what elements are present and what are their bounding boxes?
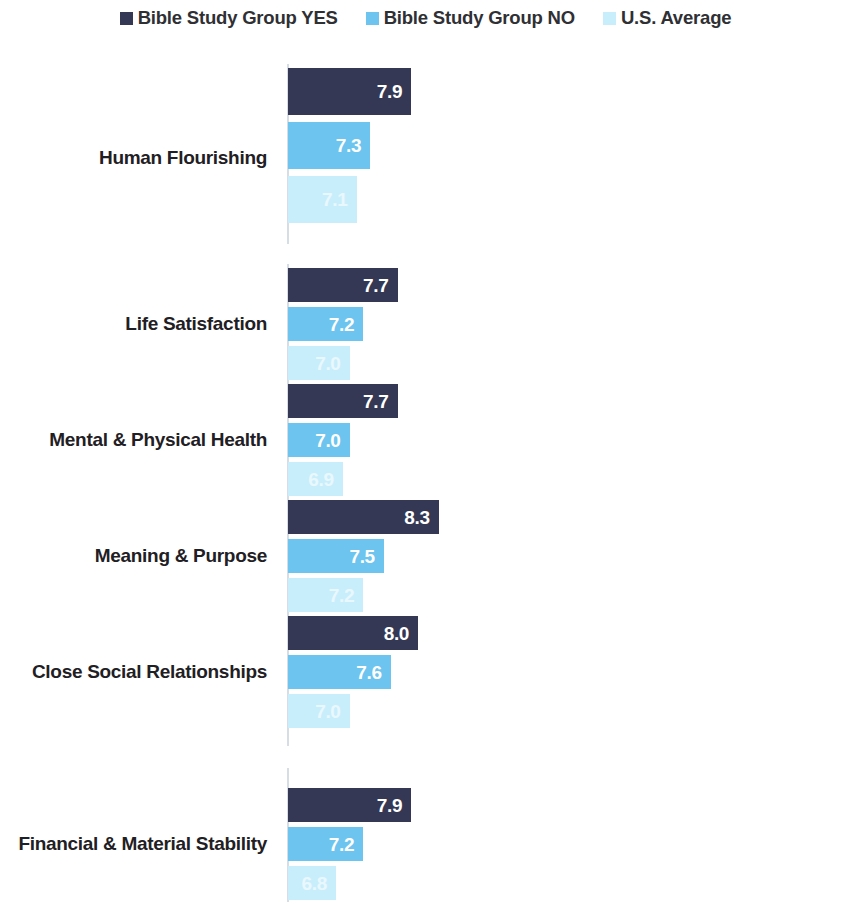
- bar-2[interactable]: 7.3: [288, 122, 370, 169]
- bar-value-label: 7.0: [315, 431, 341, 450]
- legend-item-2[interactable]: Bible Study Group NO: [366, 9, 575, 28]
- chart-legend: Bible Study Group YESBible Study Group N…: [0, 0, 851, 44]
- bar-3[interactable]: 6.9: [288, 462, 343, 496]
- legend-item-3[interactable]: U.S. Average: [603, 9, 731, 28]
- legend-swatch-no: [366, 12, 379, 25]
- bar-2[interactable]: 7.0: [288, 423, 350, 457]
- legend-swatch-yes: [120, 12, 133, 25]
- bar-value-label: 8.3: [404, 508, 430, 527]
- bar-value-label: 7.7: [363, 276, 389, 295]
- bar-1[interactable]: 7.7: [288, 268, 398, 302]
- bar-1[interactable]: 7.7: [288, 384, 398, 418]
- bar-value-label: 7.9: [377, 82, 403, 101]
- category-label: Human Flourishing: [0, 148, 267, 167]
- bar-value-label: 7.2: [329, 586, 355, 605]
- bar-3[interactable]: 7.1: [288, 176, 357, 223]
- bar-1[interactable]: 8.3: [288, 500, 439, 534]
- bar-value-label: 6.8: [301, 874, 327, 893]
- bar-3[interactable]: 7.2: [288, 578, 363, 612]
- bar-value-label: 7.5: [349, 547, 375, 566]
- bar-value-label: 7.2: [329, 835, 355, 854]
- bar-value-label: 7.1: [322, 190, 348, 209]
- bar-1[interactable]: 7.9: [288, 788, 411, 822]
- category-label: Life Satisfaction: [0, 314, 267, 333]
- legend-item-1[interactable]: Bible Study Group YES: [120, 9, 338, 28]
- bar-value-label: 8.0: [384, 624, 410, 643]
- bar-value-label: 7.9: [377, 796, 403, 815]
- category-label: Meaning & Purpose: [0, 546, 267, 565]
- bar-value-label: 7.2: [329, 315, 355, 334]
- bar-value-label: 6.9: [308, 470, 334, 489]
- bar-value-label: 7.7: [363, 392, 389, 411]
- bar-2[interactable]: 7.5: [288, 539, 384, 573]
- bar-1[interactable]: 7.9: [288, 68, 411, 115]
- category-label: Financial & Material Stability: [0, 834, 267, 853]
- category-label: Mental & Physical Health: [0, 430, 267, 449]
- legend-swatch-us-average: [603, 12, 616, 25]
- bar-2[interactable]: 7.6: [288, 655, 391, 689]
- bar-value-label: 7.6: [356, 663, 382, 682]
- bar-value-label: 7.0: [315, 702, 341, 721]
- bar-value-label: 7.0: [315, 354, 341, 373]
- legend-label: Bible Study Group NO: [384, 9, 575, 28]
- bar-1[interactable]: 8.0: [288, 616, 418, 650]
- bar-3[interactable]: 7.0: [288, 694, 350, 728]
- bar-3[interactable]: 7.0: [288, 346, 350, 380]
- bar-3[interactable]: 6.8: [288, 866, 336, 900]
- legend-label: Bible Study Group YES: [138, 9, 338, 28]
- bar-value-label: 7.3: [336, 136, 362, 155]
- bar-2[interactable]: 7.2: [288, 827, 363, 861]
- bar-2[interactable]: 7.2: [288, 307, 363, 341]
- bar-chart-plot-area: Human Flourishing7.97.37.1Life Satisfact…: [0, 44, 851, 903]
- category-label: Close Social Relationships: [0, 662, 267, 681]
- legend-label: U.S. Average: [621, 9, 731, 28]
